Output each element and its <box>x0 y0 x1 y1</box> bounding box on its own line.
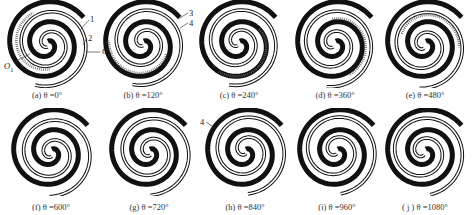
annotation-label-2: 2 <box>88 33 92 43</box>
panel-i: (i) θ =960° <box>292 108 382 213</box>
spiral-diagram-j <box>380 108 470 196</box>
panel-f: (f) θ =600° <box>6 108 96 213</box>
annotation-label-4: 4 <box>189 18 193 28</box>
spiral-diagram-b <box>98 0 188 88</box>
spiral-diagram-g <box>104 108 194 196</box>
caption-d: (d) θ =360° <box>290 90 380 100</box>
spiral-diagram-h <box>200 108 290 196</box>
panel-h: (h) θ =840° <box>200 108 290 213</box>
caption-a: (a) θ =0° <box>2 90 92 100</box>
spiral-diagram-c <box>194 0 284 88</box>
caption-f: (f) θ =600° <box>6 202 96 212</box>
caption-c: (c) θ =240° <box>194 90 284 100</box>
panel-d: (d) θ =360° <box>290 0 380 105</box>
caption-h: (h) θ =840° <box>200 202 290 212</box>
caption-e: (e) θ =480° <box>380 90 470 100</box>
annotation-label-3: 3 <box>189 8 193 18</box>
spiral-diagram-i <box>292 108 382 196</box>
caption-j: ( j ) θ =1080° <box>380 202 470 212</box>
panel-j: ( j ) θ =1080° <box>380 108 470 213</box>
spiral-diagram-f <box>6 108 96 196</box>
caption-g: (g) θ =720° <box>104 202 194 212</box>
panel-e: (e) θ =480° <box>380 0 470 105</box>
caption-b: (b) θ =120° <box>98 90 188 100</box>
annotation-label-o1: O1 <box>4 61 13 73</box>
panel-b: (b) θ =120° <box>98 0 188 105</box>
annotation-label-4-h: 4 <box>200 117 204 127</box>
panel-a: (a) θ =0° <box>2 0 92 105</box>
annotation-label-1: 1 <box>90 14 94 24</box>
panel-g: (g) θ =720° <box>104 108 194 213</box>
spiral-diagram-d <box>290 0 380 88</box>
spiral-diagram-a <box>2 0 92 88</box>
spiral-diagram-e <box>380 0 470 88</box>
panel-c: (c) θ =240° <box>194 0 284 105</box>
annotation-label-o2: O2 <box>102 46 111 58</box>
caption-i: (i) θ =960° <box>292 202 382 212</box>
